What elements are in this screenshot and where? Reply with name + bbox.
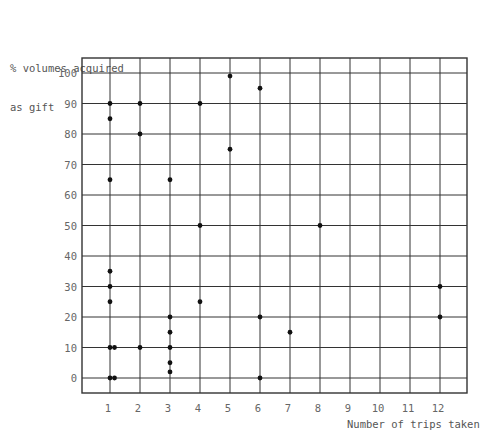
x-tick-label: 5 (225, 402, 231, 414)
data-point (108, 177, 113, 182)
y-tick-label: 40 (64, 250, 77, 262)
data-point (258, 376, 263, 381)
data-point (108, 284, 113, 289)
x-tick-label: 9 (345, 402, 351, 414)
scatter-plot: 0102030405060708090100 123456789101112 (0, 0, 490, 435)
data-points (108, 74, 443, 381)
grid-lines (82, 58, 467, 393)
y-tick-label: 100 (58, 67, 77, 79)
y-tick-label: 90 (64, 98, 77, 110)
data-point (138, 345, 143, 350)
data-point (138, 132, 143, 137)
data-point (318, 223, 323, 228)
x-tick-label: 10 (372, 402, 385, 414)
data-point (228, 74, 233, 79)
data-point (108, 376, 113, 381)
data-point (112, 345, 117, 350)
data-point (168, 360, 173, 365)
x-tick-label: 4 (195, 402, 201, 414)
data-point (258, 315, 263, 320)
data-point (108, 101, 113, 106)
x-tick-label: 11 (402, 402, 415, 414)
y-tick-labels: 0102030405060708090100 (58, 67, 77, 384)
data-point (198, 101, 203, 106)
data-point (288, 330, 293, 335)
data-point (112, 376, 117, 381)
data-point (108, 269, 113, 274)
data-point (108, 116, 113, 121)
data-point (168, 330, 173, 335)
x-tick-label: 8 (315, 402, 321, 414)
y-tick-label: 30 (64, 281, 77, 293)
x-tick-label: 2 (135, 402, 141, 414)
x-tick-label: 3 (165, 402, 171, 414)
data-point (168, 345, 173, 350)
data-point (198, 299, 203, 304)
data-point (198, 223, 203, 228)
y-tick-label: 50 (64, 220, 77, 232)
data-point (168, 370, 173, 375)
data-point (108, 345, 113, 350)
x-tick-label: 1 (105, 402, 111, 414)
data-point (138, 101, 143, 106)
x-tick-label: 6 (255, 402, 261, 414)
y-tick-label: 60 (64, 189, 77, 201)
x-tick-label: 12 (432, 402, 445, 414)
y-tick-label: 80 (64, 128, 77, 140)
data-point (228, 147, 233, 152)
x-tick-labels: 123456789101112 (105, 402, 444, 414)
data-point (168, 315, 173, 320)
y-tick-label: 70 (64, 159, 77, 171)
y-tick-label: 10 (64, 342, 77, 354)
y-tick-label: 0 (71, 372, 77, 384)
data-point (108, 299, 113, 304)
x-tick-label: 7 (285, 402, 291, 414)
data-point (438, 284, 443, 289)
data-point (438, 315, 443, 320)
data-point (168, 177, 173, 182)
x-axis-label: Number of trips taken (347, 418, 480, 430)
y-tick-label: 20 (64, 311, 77, 323)
data-point (258, 86, 263, 91)
